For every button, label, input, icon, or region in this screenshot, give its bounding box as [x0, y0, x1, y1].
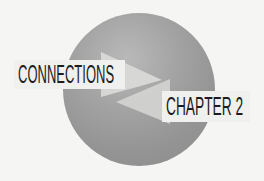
connections-chapter-logo: CONNECTIONS CHAPTER 2	[0, 0, 264, 181]
chapter-label-box: CHAPTER 2	[162, 91, 250, 122]
connections-label-box: CONNECTIONS	[14, 60, 125, 89]
connections-label: CONNECTIONS	[18, 60, 114, 89]
chapter-label: CHAPTER 2	[166, 92, 243, 121]
